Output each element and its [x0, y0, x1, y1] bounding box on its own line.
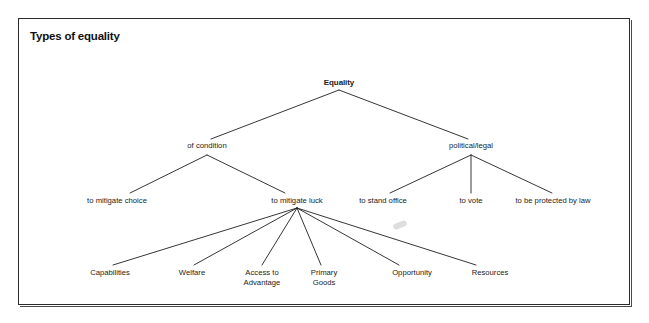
node-to-vote: to vote [459, 196, 482, 206]
diagram-page: Types of equality Equality of condition … [0, 0, 649, 323]
node-capabilities: Capabilities [90, 268, 130, 278]
node-opportunity: Opportunity [392, 268, 432, 278]
node-resources: Resources [472, 268, 509, 278]
node-political-legal: political/legal [449, 141, 493, 151]
figure-frame [18, 18, 630, 305]
figure-title: Types of equality [30, 30, 120, 42]
node-access-to-advantage: Access to Advantage [244, 268, 281, 287]
node-to-be-protected-by-law: to be protected by law [515, 196, 590, 206]
node-welfare: Welfare [179, 268, 205, 278]
node-to-mitigate-choice: to mitigate choice [87, 196, 147, 206]
node-of-condition: of condition [187, 141, 226, 151]
node-equality: Equality [324, 78, 354, 88]
node-to-mitigate-luck: to mitigate luck [271, 196, 322, 206]
node-to-stand-office: to stand office [359, 196, 407, 206]
node-primary-goods: Primary Goods [311, 268, 337, 287]
